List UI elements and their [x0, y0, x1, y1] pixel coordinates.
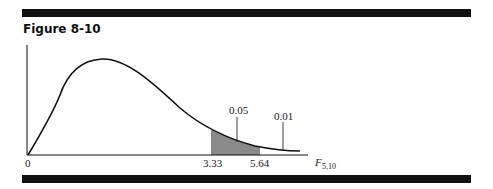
axis-label: F: [314, 156, 322, 168]
area-label-0.05: 0.05: [229, 104, 249, 116]
area-label-0.01: 0.01: [274, 110, 293, 122]
axis-subscript: 5,10: [322, 162, 336, 171]
origin-label: 0: [25, 157, 31, 169]
tick-label-5.64: 5.64: [250, 157, 270, 169]
tick-label-3.33: 3.33: [203, 157, 223, 169]
f-distribution-plot: 0.05 0.01 0 3.33 5.64 F 5,10: [0, 0, 493, 189]
shaded-area: [211, 130, 260, 155]
density-curve: [28, 59, 300, 155]
bottom-rule: [22, 175, 471, 183]
